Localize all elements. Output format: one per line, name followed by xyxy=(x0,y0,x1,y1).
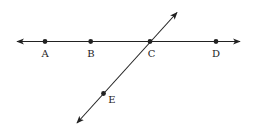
lines-layer xyxy=(17,13,240,124)
point-e xyxy=(101,91,106,96)
point-b xyxy=(88,39,93,44)
point-label-e: E xyxy=(108,94,115,105)
point-label-b: B xyxy=(87,48,94,59)
point-a xyxy=(43,39,48,44)
points-layer: ABCDE xyxy=(40,39,220,105)
point-label-c: C xyxy=(148,48,156,59)
line-diagonal xyxy=(77,13,177,124)
point-label-d: D xyxy=(212,48,220,59)
point-label-a: A xyxy=(40,48,49,59)
point-d xyxy=(214,39,219,44)
point-c xyxy=(148,39,153,44)
geometry-diagram: ABCDE xyxy=(0,0,253,126)
